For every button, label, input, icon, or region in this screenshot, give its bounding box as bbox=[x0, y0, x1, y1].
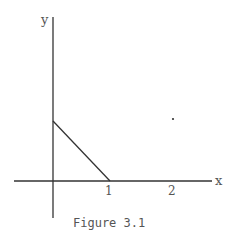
x-tick-2: 2 bbox=[168, 184, 176, 198]
x-tick-1: 1 bbox=[105, 184, 113, 198]
segment-line bbox=[53, 121, 110, 181]
figure-3-1: y x 1 2 Figure 3.1 bbox=[0, 0, 234, 240]
isolated-point bbox=[172, 118, 174, 120]
x-axis-label: x bbox=[215, 173, 223, 188]
figure-caption: Figure 3.1 bbox=[73, 216, 145, 230]
y-axis-label: y bbox=[40, 12, 49, 27]
